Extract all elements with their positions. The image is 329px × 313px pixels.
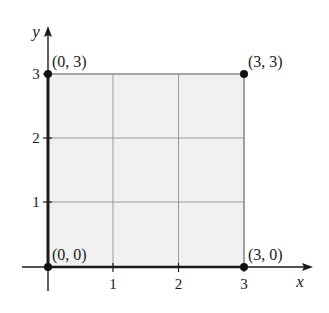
x-tick-label-1: 1 xyxy=(109,276,117,292)
y-axis-label: y xyxy=(30,22,40,41)
shaded-region xyxy=(48,74,244,267)
point-label-0-0: (0, 0) xyxy=(52,246,87,264)
plot-canvas: 1 2 3 1 2 3 x y (0, 0) (3, 0) (3, 3) (0,… xyxy=(0,0,329,313)
x-axis-label: x xyxy=(295,272,304,291)
x-tick-label-3: 3 xyxy=(240,276,248,292)
y-tick-label-2: 2 xyxy=(32,130,40,146)
point-label-0-3: (0, 3) xyxy=(52,53,87,71)
point-3-3 xyxy=(240,70,248,78)
point-0-3 xyxy=(44,70,52,78)
point-0-0 xyxy=(44,263,52,271)
x-tick-label-2: 2 xyxy=(175,276,183,292)
coordinate-plot: 1 2 3 1 2 3 x y (0, 0) (3, 0) (3, 3) (0,… xyxy=(0,0,329,313)
y-tick-label-3: 3 xyxy=(32,66,40,82)
point-label-3-3: (3, 3) xyxy=(248,53,283,71)
y-tick-label-1: 1 xyxy=(32,194,40,210)
point-label-3-0: (3, 0) xyxy=(248,246,283,264)
point-3-0 xyxy=(240,263,248,271)
